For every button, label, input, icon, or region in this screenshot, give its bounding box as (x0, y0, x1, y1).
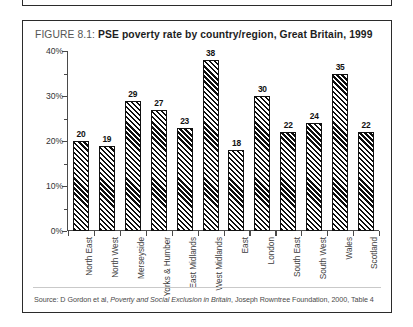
bar[interactable] (99, 146, 115, 232)
x-category-label: West Midlands (214, 237, 224, 291)
y-tick-mark-minor (64, 164, 68, 165)
x-category-label: South East (292, 237, 302, 277)
x-category-label: London (266, 237, 276, 264)
bar[interactable] (73, 141, 89, 231)
x-tick-mark (353, 231, 354, 236)
bar-value-label: 27 (154, 98, 163, 108)
y-tick-label: 20% (46, 136, 63, 146)
bar[interactable] (280, 132, 296, 231)
bar-slot: 23 (177, 51, 193, 231)
bar-slot: 20 (73, 51, 89, 231)
figure-container: FIGURE 8.1: PSE poverty rate by country/… (22, 20, 392, 313)
x-category-label: East (240, 237, 250, 253)
bar[interactable] (306, 123, 322, 231)
x-tick-mark (198, 231, 199, 236)
bar-value-label: 24 (310, 111, 319, 121)
bar-value-label: 30 (258, 84, 267, 94)
bar-slot: 30 (254, 51, 270, 231)
bars-container: 201929272338183022243522 (68, 51, 379, 231)
bar-slot: 29 (125, 51, 141, 231)
y-tick-mark-major (62, 231, 67, 232)
bar[interactable] (177, 128, 193, 232)
bar-slot: 22 (280, 51, 296, 231)
x-category-label: Wales (344, 237, 354, 260)
bar-slot: 38 (203, 51, 219, 231)
bar-value-label: 19 (102, 134, 111, 144)
y-tick-label: 30% (46, 91, 63, 101)
x-category-label: East Midlands (188, 237, 198, 288)
x-tick-mark (68, 231, 69, 236)
x-tick-mark (249, 231, 250, 236)
x-category-label: North East (84, 237, 94, 276)
x-tick-mark (94, 231, 95, 236)
bar[interactable] (228, 150, 244, 231)
bar-value-label: 23 (180, 116, 189, 126)
y-tick-mark-minor (64, 119, 68, 120)
x-category-label: South West (318, 237, 328, 279)
y-tick-label: 40% (46, 46, 63, 56)
x-tick-mark (120, 231, 121, 236)
bar[interactable] (125, 101, 141, 232)
y-tick-mark-major (62, 186, 67, 187)
y-tick-mark-major (62, 51, 67, 52)
y-axis-tick-labels: 0%10%20%30%40% (29, 51, 63, 231)
x-tick-mark (379, 231, 380, 236)
bar-slot: 22 (358, 51, 374, 231)
source-prefix: Source: D Gordon et al, (34, 295, 110, 304)
x-tick-mark (172, 231, 173, 236)
bar[interactable] (151, 110, 167, 232)
bar-slot: 35 (332, 51, 348, 231)
x-tick-mark (224, 231, 225, 236)
bar-value-label: 20 (76, 129, 85, 139)
y-tick-mark-major (62, 96, 67, 97)
chart-plot-area: 0%10%20%30%40% 201929272338183022243522 … (23, 51, 391, 276)
figure-caption: PSE poverty rate by country/region, Grea… (98, 29, 372, 40)
y-tick-label: 10% (46, 181, 63, 191)
figure-title: FIGURE 8.1: PSE poverty rate by country/… (35, 29, 383, 40)
y-tick-mark-minor (64, 74, 68, 75)
bar[interactable] (358, 132, 374, 231)
bar-slot: 24 (306, 51, 322, 231)
x-category-label: Merseyside (136, 237, 146, 279)
x-tick-mark (327, 231, 328, 236)
bar-slot: 18 (228, 51, 244, 231)
bar-value-label: 29 (128, 89, 137, 99)
source-suffix: , Joseph Rowntree Foundation, 2000, Tabl… (231, 295, 374, 304)
bar-value-label: 22 (284, 120, 293, 130)
y-tick-mark-minor (64, 209, 68, 210)
bar[interactable] (254, 96, 270, 231)
figure-source-note: Source: D Gordon et al, Poverty and Soci… (34, 295, 383, 304)
bar-slot: 19 (99, 51, 115, 231)
bar-value-label: 35 (336, 62, 345, 72)
x-category-label: Scotland (369, 237, 379, 269)
source-italic-title: Poverty and Social Exclusion in Britain (110, 295, 231, 304)
bar-value-label: 18 (232, 138, 241, 148)
bar-value-label: 22 (362, 120, 371, 130)
source-divider (33, 287, 381, 288)
bar[interactable] (203, 60, 219, 231)
page-top-partial-box (22, 0, 392, 6)
bar[interactable] (332, 74, 348, 232)
x-tick-mark (301, 231, 302, 236)
y-tick-mark-major (62, 141, 67, 142)
x-tick-mark (275, 231, 276, 236)
bar-slot: 27 (151, 51, 167, 231)
x-category-label: North West (110, 237, 120, 278)
bar-value-label: 38 (206, 48, 215, 58)
figure-number-label: FIGURE 8.1: (35, 29, 95, 40)
x-tick-mark (146, 231, 147, 236)
